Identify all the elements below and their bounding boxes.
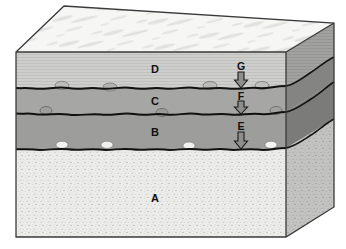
block-right-side-face [286, 23, 334, 237]
contact-label-e: E [230, 121, 252, 131]
layer-label-c: C [145, 96, 165, 107]
geologic-block-svg [0, 0, 346, 249]
contact-label-f: F [230, 91, 252, 101]
contact-label-g: G [230, 61, 252, 71]
layer-label-b: B [145, 127, 165, 138]
side-face-shading [286, 23, 334, 237]
layer-label-a: A [145, 193, 165, 204]
block-diagram-figure: D C B A G F E [0, 0, 346, 249]
layer-label-d: D [145, 64, 165, 75]
